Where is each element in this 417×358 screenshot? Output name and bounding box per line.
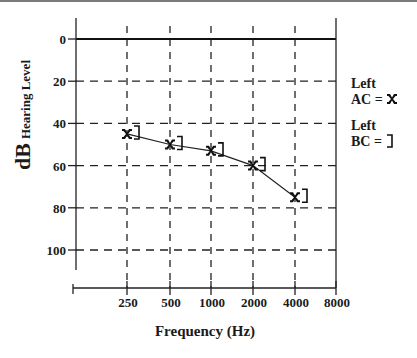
y-tick-label: 100 [47, 243, 67, 258]
bc-bracket-marker [302, 189, 307, 202]
bc-bracket-marker [260, 158, 265, 171]
y-tick-label: 80 [53, 201, 66, 216]
data-series [122, 126, 307, 202]
legend-bc: Left BC = [351, 118, 395, 150]
bc-bracket-marker [134, 126, 139, 139]
grid-lines [76, 26, 336, 288]
y-tick-label: 0 [60, 32, 67, 47]
y-tick-label: 40 [53, 116, 66, 131]
x-tick-label: 4000 [283, 295, 309, 310]
x-marker-icon [386, 93, 398, 105]
axes [73, 18, 336, 294]
x-axis-ticks: 2505001000200040008000 [118, 281, 350, 310]
legend-bc-line2: BC = [351, 134, 382, 149]
y-axis-label-main: dB [10, 143, 35, 170]
y-axis-label: dB Hearing Level [10, 60, 36, 170]
bc-bracket-marker [177, 137, 182, 150]
x-tick-label: 1000 [199, 295, 225, 310]
x-axis-label: Frequency (Hz) [155, 323, 255, 340]
y-axis-ticks: 020406080100 [47, 32, 78, 258]
legend-ac-line2: AC = [351, 92, 383, 107]
legend-ac-line1: Left [351, 76, 398, 92]
audiogram-chart: 020406080100 2505001000200040008000 Freq… [0, 0, 417, 358]
x-tick-label: 8000 [324, 295, 350, 310]
legend-ac: Left AC = [351, 76, 398, 108]
y-tick-label: 60 [53, 159, 66, 174]
legend-bc-line1: Left [351, 118, 395, 134]
x-tick-label: 2000 [241, 295, 267, 310]
bracket-marker-icon [385, 134, 395, 148]
y-axis-label-sub: Hearing Level [18, 60, 33, 139]
x-tick-label: 500 [161, 295, 181, 310]
x-tick-label: 250 [118, 295, 138, 310]
y-tick-label: 20 [53, 74, 66, 89]
